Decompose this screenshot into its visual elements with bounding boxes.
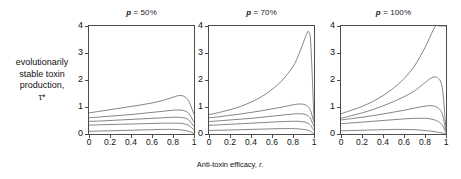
y-tick-label: 0: [323, 129, 335, 138]
x-tick-label: 1: [438, 138, 454, 147]
plot-curves: [340, 25, 447, 135]
plot-panel-panel-p50: [88, 25, 195, 135]
x-tick-label: 0.2: [354, 138, 370, 147]
y-tick-label: 0: [71, 129, 83, 138]
y-tick-label: 0: [191, 129, 203, 138]
y-tick-label: 2: [323, 75, 335, 84]
y-tick-label: 4: [71, 21, 83, 30]
x-tick-label: 0: [201, 138, 217, 147]
curve-1: [209, 31, 314, 120]
y-tick-mark: [85, 80, 88, 81]
y-tick-mark: [337, 107, 340, 108]
figure-toxin-production-panels: evolutionarily stable toxin production, …: [0, 0, 461, 179]
plot-panel-panel-p100: [340, 25, 447, 135]
y-tick-mark: [205, 53, 208, 54]
y-axis-label-line-1: evolutionarily: [0, 57, 84, 69]
x-tick-label: 0.6: [396, 138, 412, 147]
curve-5: [341, 129, 446, 133]
x-axis-label-variable: r.: [259, 160, 263, 169]
y-tick-label: 3: [323, 48, 335, 57]
y-tick-label: 1: [71, 102, 83, 111]
x-tick-label: 0.8: [417, 138, 433, 147]
y-tick-label: 1: [191, 102, 203, 111]
curve-1: [341, 25, 446, 114]
x-axis-label-prefix: Anti-toxin efficacy,: [197, 160, 259, 169]
curve-2: [341, 77, 446, 129]
x-tick-label: 0.4: [375, 138, 391, 147]
plot-curves: [208, 25, 315, 135]
y-tick-mark: [337, 134, 340, 135]
x-tick-label: 0: [81, 138, 97, 147]
x-tick-label: 1: [306, 138, 322, 147]
x-tick-label: 0.4: [123, 138, 139, 147]
x-tick-label: 0: [333, 138, 349, 147]
y-tick-label: 2: [71, 75, 83, 84]
y-tick-mark: [85, 134, 88, 135]
x-tick-label: 1: [186, 138, 202, 147]
y-tick-mark: [205, 26, 208, 27]
y-tick-mark: [85, 53, 88, 54]
x-axis-label: Anti-toxin efficacy, r.: [150, 160, 310, 169]
curve-2: [89, 110, 194, 122]
panel-title-value: = 70%: [251, 8, 277, 17]
y-tick-label: 3: [71, 48, 83, 57]
panel-title-panel-p50: p = 50%: [88, 8, 195, 17]
panel-title-value: = 50%: [131, 8, 157, 17]
panel-title-panel-p70: p = 70%: [208, 8, 315, 17]
panel-title-panel-p100: p = 100%: [340, 8, 447, 17]
curve-5: [209, 129, 314, 134]
x-tick-label: 0.2: [102, 138, 118, 147]
x-tick-label: 0.8: [285, 138, 301, 147]
y-tick-mark: [337, 26, 340, 27]
x-tick-label: 0.6: [144, 138, 160, 147]
plot-curves: [88, 25, 195, 135]
x-tick-label: 0.6: [264, 138, 280, 147]
y-tick-mark: [337, 53, 340, 54]
y-tick-label: 4: [323, 21, 335, 30]
y-tick-mark: [205, 134, 208, 135]
curve-2: [209, 104, 314, 123]
y-tick-label: 4: [191, 21, 203, 30]
y-tick-mark: [85, 26, 88, 27]
curve-5: [89, 129, 194, 133]
y-tick-mark: [205, 80, 208, 81]
plot-panel-panel-p70: [208, 25, 315, 135]
curve-4: [89, 123, 194, 130]
y-tick-mark: [85, 107, 88, 108]
x-tick-label: 0.4: [243, 138, 259, 147]
x-tick-label: 0.8: [165, 138, 181, 147]
curve-1: [89, 96, 194, 115]
y-tick-label: 1: [323, 102, 335, 111]
y-tick-label: 3: [191, 48, 203, 57]
y-tick-mark: [337, 80, 340, 81]
y-tick-mark: [205, 107, 208, 108]
x-tick-label: 0.2: [222, 138, 238, 147]
y-axis-label-text-1: evolutionarily: [16, 57, 69, 67]
panel-title-value: = 100%: [381, 8, 411, 17]
y-tick-label: 2: [191, 75, 203, 84]
